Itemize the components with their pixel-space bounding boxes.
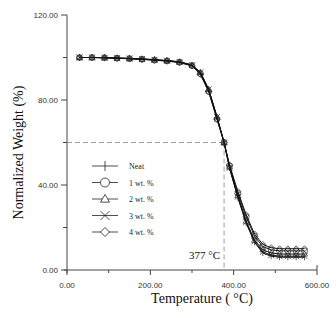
tga-chart: 0.0040.0080.00120.000.00200.00400.00600.… [0, 0, 336, 318]
series-2-wt- [77, 55, 308, 257]
series-1-wt- [77, 55, 308, 254]
x-axis-title: Temperature ( °C) [151, 291, 253, 307]
legend-label: 2 wt. % [129, 195, 154, 204]
annotation-label: 377 °C [189, 249, 220, 261]
x-tick-label: 600.00 [305, 281, 330, 290]
legend: Neat1 wt. %2 wt. %3 wt. %4 wt. % [92, 161, 154, 237]
y-tick-label: 80.00 [38, 96, 59, 105]
series-3-wt- [77, 55, 308, 260]
y-tick-label: 40.00 [38, 181, 59, 190]
legend-label: 1 wt. % [129, 179, 154, 188]
legend-label: 4 wt. % [129, 228, 154, 237]
x-tick-label: 0.00 [59, 281, 75, 290]
legend-label: Neat [129, 162, 145, 171]
y-axis-title: Normalized Weight (%) [11, 85, 27, 219]
x-tick-label: 400.00 [221, 281, 246, 290]
series-neat [80, 55, 305, 261]
y-tick-label: 0.00 [42, 266, 58, 275]
y-tick-label: 120.00 [34, 11, 59, 20]
series-4-wt- [77, 55, 308, 252]
x-tick-label: 200.00 [138, 281, 163, 290]
legend-label: 3 wt. % [129, 212, 154, 221]
